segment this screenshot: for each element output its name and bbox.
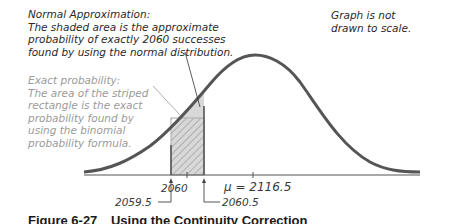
scale-disclaimer-note: Graph is not drawn to scale.	[331, 9, 411, 34]
tick-label-2060: 2060	[161, 182, 188, 194]
note-line: drawn to scale.	[331, 22, 411, 35]
exact-probability-note: Exact probability: The area of the strip…	[28, 74, 149, 149]
normal-approximation-note: Normal Approximation: The shaded area is…	[28, 8, 233, 58]
note-line: probability of exactly 2060 successes	[28, 33, 233, 46]
upper-boundary-label: 2060.5	[222, 196, 259, 208]
normal-note-pointer	[185, 52, 200, 107]
note-line: The area of the striped	[28, 87, 149, 100]
note-line: Normal Approximation:	[28, 8, 233, 21]
mean-label: μ = 2116.5	[224, 180, 291, 194]
striped-rectangle	[171, 118, 204, 175]
note-line: The shaded area is the approximate	[28, 21, 233, 34]
note-line: found by using the normal distribution.	[28, 46, 233, 59]
note-line: probability formula.	[28, 137, 149, 150]
note-line: rectangle is the exact	[28, 99, 149, 112]
figure-number: Figure 6-27	[28, 213, 97, 224]
exact-note-pointer	[153, 86, 180, 115]
lower-boundary-label: 2059.5	[115, 196, 152, 208]
note-line: Graph is not	[331, 9, 411, 22]
note-line: probability found by	[28, 112, 149, 125]
figure-title: Using the Continuity Correction	[111, 213, 307, 224]
figure-caption: Figure 6-27 Using the Continuity Correct…	[28, 213, 307, 224]
note-line: using the binomial	[28, 124, 149, 137]
arrow-2060-5	[202, 178, 220, 202]
note-line: Exact probability:	[28, 74, 149, 87]
